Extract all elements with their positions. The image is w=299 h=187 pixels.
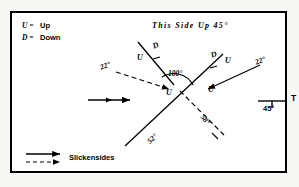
figure-frame: U = Up D = Down This Side Up 45° xyxy=(10,11,287,173)
angle-label-center: 100° xyxy=(168,70,182,78)
marker-mid-left-u: U xyxy=(166,89,172,97)
double-arrow-indicator xyxy=(88,98,130,103)
legend-slickensides-label: Slickensides xyxy=(69,154,114,162)
main-fault-line xyxy=(125,54,223,146)
marker-upper-left-u: U xyxy=(137,54,143,62)
left-slickenside-dashed xyxy=(116,72,169,89)
fault-tick xyxy=(210,66,217,68)
marker-upper-right-u: U xyxy=(225,57,231,65)
fault-linework xyxy=(12,13,289,175)
right-slickenside-arrow xyxy=(208,65,260,89)
figure-canvas: U = Up D = Down This Side Up 45° xyxy=(0,0,299,187)
scale-t-symbol: T xyxy=(291,94,296,103)
marker-mid-right-u: U xyxy=(208,86,214,94)
scale-dip-value: 45° xyxy=(263,105,274,113)
